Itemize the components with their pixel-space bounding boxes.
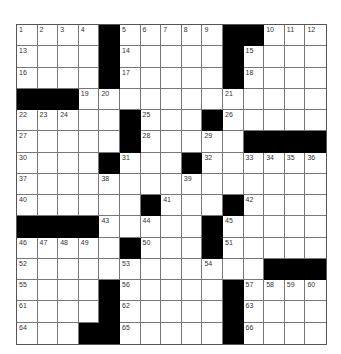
crossword-cell[interactable] xyxy=(305,68,326,89)
crossword-cell[interactable]: 58 xyxy=(264,280,285,301)
crossword-cell[interactable] xyxy=(79,301,100,322)
crossword-cell[interactable] xyxy=(58,323,79,344)
crossword-cell[interactable]: 9 xyxy=(202,25,223,46)
crossword-cell[interactable] xyxy=(161,238,182,259)
crossword-cell[interactable] xyxy=(182,280,203,301)
crossword-cell[interactable] xyxy=(285,68,306,89)
crossword-cell[interactable] xyxy=(264,174,285,195)
crossword-cell[interactable]: 60 xyxy=(305,280,326,301)
crossword-cell[interactable] xyxy=(285,174,306,195)
crossword-cell[interactable]: 14 xyxy=(120,46,141,67)
crossword-cell[interactable] xyxy=(161,280,182,301)
crossword-cell[interactable] xyxy=(264,301,285,322)
crossword-cell[interactable] xyxy=(305,301,326,322)
crossword-cell[interactable]: 1 xyxy=(17,25,38,46)
crossword-cell[interactable] xyxy=(141,68,162,89)
crossword-cell[interactable]: 15 xyxy=(244,46,265,67)
crossword-cell[interactable] xyxy=(38,46,59,67)
crossword-cell[interactable] xyxy=(161,110,182,131)
crossword-cell[interactable] xyxy=(161,323,182,344)
crossword-cell[interactable] xyxy=(79,110,100,131)
crossword-cell[interactable]: 22 xyxy=(17,110,38,131)
crossword-cell[interactable]: 8 xyxy=(182,25,203,46)
crossword-cell[interactable] xyxy=(182,259,203,280)
crossword-cell[interactable] xyxy=(38,259,59,280)
crossword-cell[interactable]: 26 xyxy=(223,110,244,131)
crossword-cell[interactable] xyxy=(285,238,306,259)
crossword-cell[interactable] xyxy=(141,301,162,322)
crossword-cell[interactable] xyxy=(38,131,59,152)
crossword-cell[interactable] xyxy=(58,68,79,89)
crossword-cell[interactable]: 43 xyxy=(99,216,120,237)
crossword-cell[interactable] xyxy=(58,174,79,195)
crossword-cell[interactable] xyxy=(264,195,285,216)
crossword-cell[interactable]: 2 xyxy=(38,25,59,46)
crossword-cell[interactable] xyxy=(161,216,182,237)
crossword-cell[interactable]: 18 xyxy=(244,68,265,89)
crossword-cell[interactable] xyxy=(99,110,120,131)
crossword-cell[interactable]: 16 xyxy=(17,68,38,89)
crossword-cell[interactable] xyxy=(202,68,223,89)
crossword-cell[interactable] xyxy=(79,131,100,152)
crossword-cell[interactable]: 7 xyxy=(161,25,182,46)
crossword-cell[interactable] xyxy=(264,110,285,131)
crossword-cell[interactable] xyxy=(285,323,306,344)
crossword-cell[interactable] xyxy=(264,46,285,67)
crossword-cell[interactable] xyxy=(58,195,79,216)
crossword-cell[interactable]: 63 xyxy=(244,301,265,322)
crossword-cell[interactable]: 21 xyxy=(223,89,244,110)
crossword-cell[interactable] xyxy=(182,216,203,237)
crossword-cell[interactable] xyxy=(285,89,306,110)
crossword-cell[interactable] xyxy=(244,110,265,131)
crossword-cell[interactable]: 66 xyxy=(244,323,265,344)
crossword-cell[interactable] xyxy=(202,89,223,110)
crossword-cell[interactable] xyxy=(58,259,79,280)
crossword-cell[interactable]: 4 xyxy=(79,25,100,46)
crossword-cell[interactable] xyxy=(38,323,59,344)
crossword-cell[interactable] xyxy=(99,259,120,280)
crossword-cell[interactable]: 33 xyxy=(244,153,265,174)
crossword-cell[interactable] xyxy=(305,216,326,237)
crossword-cell[interactable] xyxy=(223,131,244,152)
crossword-cell[interactable] xyxy=(182,68,203,89)
crossword-cell[interactable]: 28 xyxy=(141,131,162,152)
crossword-cell[interactable] xyxy=(202,195,223,216)
crossword-cell[interactable]: 65 xyxy=(120,323,141,344)
crossword-cell[interactable]: 49 xyxy=(79,238,100,259)
crossword-cell[interactable] xyxy=(285,216,306,237)
crossword-cell[interactable] xyxy=(38,153,59,174)
crossword-cell[interactable] xyxy=(38,195,59,216)
crossword-cell[interactable] xyxy=(120,195,141,216)
crossword-cell[interactable]: 5 xyxy=(120,25,141,46)
crossword-cell[interactable] xyxy=(38,174,59,195)
crossword-cell[interactable] xyxy=(305,323,326,344)
crossword-cell[interactable] xyxy=(141,89,162,110)
crossword-cell[interactable]: 29 xyxy=(202,131,223,152)
crossword-cell[interactable]: 50 xyxy=(141,238,162,259)
crossword-cell[interactable]: 44 xyxy=(141,216,162,237)
crossword-cell[interactable] xyxy=(120,174,141,195)
crossword-cell[interactable] xyxy=(182,131,203,152)
crossword-cell[interactable] xyxy=(38,301,59,322)
crossword-cell[interactable] xyxy=(161,46,182,67)
crossword-cell[interactable] xyxy=(38,68,59,89)
crossword-cell[interactable] xyxy=(285,195,306,216)
crossword-cell[interactable] xyxy=(244,89,265,110)
crossword-cell[interactable] xyxy=(79,259,100,280)
crossword-cell[interactable] xyxy=(58,280,79,301)
crossword-cell[interactable]: 23 xyxy=(38,110,59,131)
crossword-cell[interactable] xyxy=(305,110,326,131)
crossword-cell[interactable] xyxy=(141,259,162,280)
crossword-cell[interactable] xyxy=(182,301,203,322)
crossword-cell[interactable] xyxy=(161,153,182,174)
crossword-cell[interactable] xyxy=(305,195,326,216)
crossword-cell[interactable]: 11 xyxy=(285,25,306,46)
crossword-cell[interactable] xyxy=(305,238,326,259)
crossword-cell[interactable] xyxy=(202,280,223,301)
crossword-cell[interactable]: 31 xyxy=(120,153,141,174)
crossword-cell[interactable] xyxy=(264,68,285,89)
crossword-cell[interactable] xyxy=(305,89,326,110)
crossword-cell[interactable] xyxy=(182,195,203,216)
crossword-cell[interactable]: 48 xyxy=(58,238,79,259)
crossword-cell[interactable] xyxy=(141,323,162,344)
